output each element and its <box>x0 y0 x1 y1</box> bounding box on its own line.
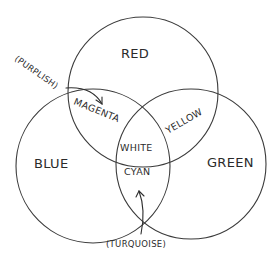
white-label: WHITE <box>120 142 153 153</box>
venn-diagram: RED BLUE GREEN MAGENTA YELLOW WHITE CYAN… <box>0 0 279 268</box>
magenta-label: MAGENTA <box>72 96 121 125</box>
purplish-annotation: (PURPLISH) <box>13 53 61 90</box>
cyan-label: CYAN <box>124 166 150 177</box>
red-label: RED <box>121 46 149 61</box>
turquoise-annotation: (TURQUOISE) <box>106 239 166 249</box>
green-label: GREEN <box>207 155 254 170</box>
yellow-label: YELLOW <box>163 106 205 137</box>
blue-label: BLUE <box>34 156 68 171</box>
